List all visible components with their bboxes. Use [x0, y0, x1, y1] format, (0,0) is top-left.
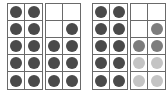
ten-frame-3: [92, 3, 128, 90]
ten-frame-cell: [46, 21, 63, 38]
counter-dot-dark: [95, 57, 107, 69]
counter-dot-dark: [10, 75, 22, 87]
counter-dot-dark: [28, 23, 40, 35]
ten-frame-cell: [63, 4, 80, 21]
ten-frame-cell: [93, 4, 110, 21]
counter-dot-dark: [28, 75, 40, 87]
ten-frame-cell: [131, 21, 148, 38]
ten-frame-cell: [148, 38, 165, 55]
ten-frame-cell: [25, 72, 42, 89]
counter-dot-dark: [66, 57, 78, 69]
ten-frame-cell: [131, 4, 148, 21]
ten-frame-cell: [63, 38, 80, 55]
counter-dot-dark: [66, 40, 78, 52]
counter-dot-dark: [48, 40, 60, 52]
ten-frame-cell: [148, 21, 165, 38]
counter-dot-dark: [113, 6, 125, 18]
counter-dot-dark: [48, 75, 60, 87]
counter-dot-dark: [28, 40, 40, 52]
ten-frame-cell: [93, 21, 110, 38]
counter-dot-dark: [10, 40, 22, 52]
counter-dot-dark: [10, 57, 22, 69]
ten-frame-cell: [148, 4, 165, 21]
counter-dot-dark: [113, 75, 125, 87]
ten-frame-cell: [110, 38, 127, 55]
counter-dot-medium: [151, 40, 163, 52]
ten-frame-cell: [148, 55, 165, 72]
ten-frame-cell: [131, 38, 148, 55]
counter-dot-light: [133, 57, 145, 69]
ten-frame-cell: [110, 4, 127, 21]
ten-frame-cell: [131, 55, 148, 72]
ten-frame-cell: [25, 38, 42, 55]
counter-dot-dark: [95, 75, 107, 87]
ten-frame-cell: [46, 4, 63, 21]
counter-dot-dark: [95, 40, 107, 52]
ten-frame-cell: [8, 55, 25, 72]
ten-frame-cell: [46, 55, 63, 72]
ten-frame-cell: [25, 4, 42, 21]
counter-dot-dark: [66, 75, 78, 87]
ten-frame-cell: [46, 38, 63, 55]
counter-dot-dark: [10, 23, 22, 35]
ten-frame-cell: [8, 4, 25, 21]
counter-dot-dark: [28, 6, 40, 18]
ten-frame-cell: [63, 55, 80, 72]
ten-frame-cell: [25, 55, 42, 72]
counter-dot-dark: [113, 40, 125, 52]
ten-frame-cell: [148, 72, 165, 89]
counter-dot-light: [151, 75, 163, 87]
ten-frame-cell: [25, 21, 42, 38]
ten-frame-cell: [8, 38, 25, 55]
ten-frame-2: [45, 3, 81, 90]
counter-dot-light: [151, 57, 163, 69]
counter-dot-medium: [133, 40, 145, 52]
counter-dot-dark: [113, 23, 125, 35]
ten-frame-cell: [93, 55, 110, 72]
counter-dot-dark: [95, 6, 107, 18]
counter-dot-dark: [66, 23, 78, 35]
ten-frame-cell: [93, 38, 110, 55]
ten-frame-cell: [8, 72, 25, 89]
ten-frame-4: [130, 3, 166, 90]
ten-frame-cell: [8, 21, 25, 38]
ten-frame-cell: [110, 55, 127, 72]
ten-frame-cell: [63, 21, 80, 38]
counter-dot-dark: [95, 23, 107, 35]
counter-dot-light: [133, 75, 145, 87]
counter-dot-dark: [28, 57, 40, 69]
ten-frame-cell: [46, 72, 63, 89]
counter-dot-dark: [10, 6, 22, 18]
counter-dot-dark: [48, 57, 60, 69]
counter-dot-medium: [151, 23, 163, 35]
ten-frame-cell: [93, 72, 110, 89]
ten-frame-1: [7, 3, 43, 90]
ten-frame-cell: [110, 21, 127, 38]
ten-frame-cell: [131, 72, 148, 89]
ten-frame-cell: [63, 72, 80, 89]
counter-dot-dark: [113, 57, 125, 69]
ten-frame-cell: [110, 72, 127, 89]
